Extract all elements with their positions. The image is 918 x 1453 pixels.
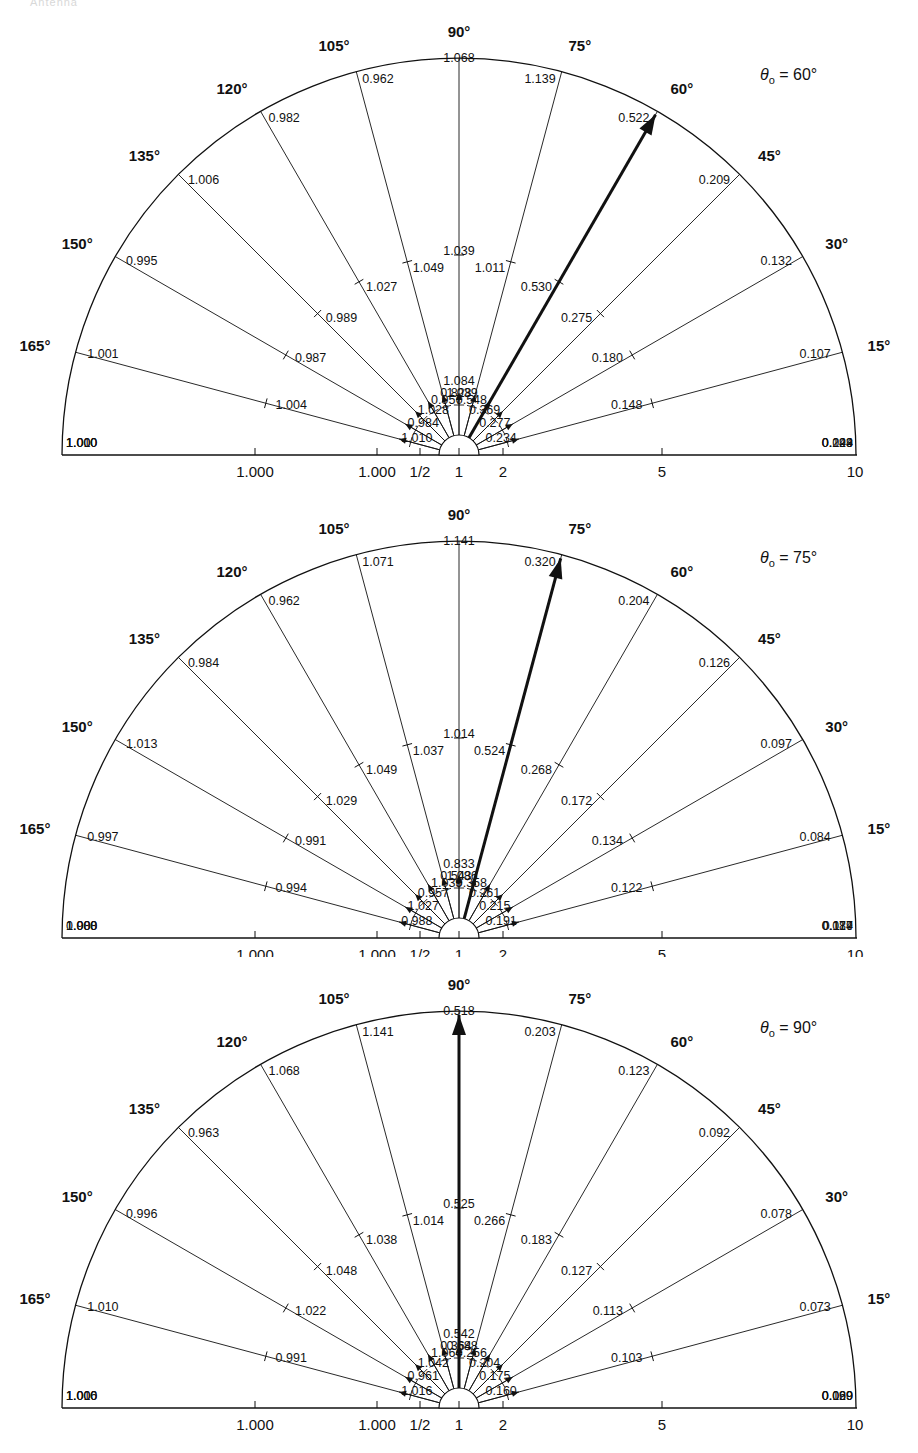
radial-ray-165 xyxy=(76,352,440,450)
theta0-annotation: θo = 90° xyxy=(760,1019,817,1039)
radial-ray-15 xyxy=(478,835,842,933)
radial-ray-45 xyxy=(473,174,740,441)
radial-ray-15 xyxy=(478,352,842,450)
radial-ray-135 xyxy=(178,174,445,441)
mid-value-105: 1.037 xyxy=(413,744,444,758)
radial-ray-105 xyxy=(356,555,454,919)
outer-value-45: 0.092 xyxy=(699,1126,730,1140)
mid-tick-30 xyxy=(630,1304,635,1313)
mid-value-30: 0.113 xyxy=(593,1304,623,1318)
radial-ray-45 xyxy=(473,657,740,924)
angle-label-105: 105° xyxy=(318,520,349,537)
angle-label-30: 30° xyxy=(825,1188,848,1205)
inner-value-135: 0.957 xyxy=(418,886,449,900)
axis-tick-label: 1.000 xyxy=(236,463,274,480)
angle-label-45: 45° xyxy=(758,1100,781,1117)
outer-value-150: 0.995 xyxy=(126,254,157,268)
axis-tick-label: 2 xyxy=(499,946,507,957)
angle-label-90: 90° xyxy=(448,506,471,523)
angle-label-90: 90° xyxy=(448,23,471,40)
radial-ray-15 xyxy=(478,1305,842,1403)
axis-tick-label: 5 xyxy=(658,463,666,480)
mid-tick-120 xyxy=(355,279,364,284)
inner-value-165: 1.016 xyxy=(401,1384,432,1398)
inner-value-180: 1.000 xyxy=(66,436,97,450)
inner-value-180: 1.000 xyxy=(66,919,97,933)
axis-tick-label: 10 xyxy=(847,946,864,957)
mid-value-120: 1.038 xyxy=(366,1233,397,1247)
angle-label-120: 120° xyxy=(216,80,247,97)
outer-value-165: 1.001 xyxy=(87,347,118,361)
axis-tick-label: 1.000 xyxy=(358,1416,396,1433)
mid-value-90: 1.014 xyxy=(443,727,474,741)
outer-value-90: 1.141 xyxy=(443,534,474,548)
mid-value-60: 0.530 xyxy=(521,280,552,294)
angle-label-150: 150° xyxy=(62,235,93,252)
mid-tick-150 xyxy=(283,1304,288,1313)
axis-tick-label: 5 xyxy=(658,946,666,957)
mid-value-120: 1.027 xyxy=(366,280,397,294)
angle-label-60: 60° xyxy=(671,563,694,580)
mid-value-60: 0.183 xyxy=(521,1233,552,1247)
outer-value-15: 0.107 xyxy=(799,347,830,361)
angle-label-60: 60° xyxy=(671,1033,694,1050)
angle-label-135: 135° xyxy=(129,147,160,164)
inner-value-150: 1.027 xyxy=(408,899,439,913)
mid-value-15: 0.148 xyxy=(611,398,642,412)
outer-value-165: 1.010 xyxy=(87,1300,118,1314)
inner-value-135: 1.028 xyxy=(418,403,449,417)
theta0-annotation: θo = 60° xyxy=(760,66,817,86)
mid-value-105: 1.014 xyxy=(413,1214,444,1228)
axis-tick-label: 1 xyxy=(455,946,463,957)
mid-value-150: 0.991 xyxy=(295,834,326,848)
outer-value-45: 0.126 xyxy=(699,656,730,670)
inner-value-165: 1.010 xyxy=(401,431,432,445)
polar-chart-panel-0: 1.0001.0001/21251015°30°45°60°75°90°105°… xyxy=(0,0,918,492)
radial-ray-105 xyxy=(356,1025,454,1389)
angle-label-135: 135° xyxy=(129,630,160,647)
outer-value-135: 0.984 xyxy=(188,656,219,670)
outer-value-30: 0.078 xyxy=(761,1207,792,1221)
mid-tick-120 xyxy=(355,1232,364,1237)
mid-value-45: 0.172 xyxy=(561,794,592,808)
axis-tick-label: 1 xyxy=(455,463,463,480)
angle-label-15: 15° xyxy=(868,820,891,837)
outer-value-30: 0.132 xyxy=(761,254,792,268)
angle-label-165: 165° xyxy=(19,820,50,837)
axis-tick-label: 1/2 xyxy=(410,946,431,957)
angle-label-120: 120° xyxy=(216,1033,247,1050)
inner-value-30: 0.277 xyxy=(479,416,510,430)
mid-tick-150 xyxy=(283,351,288,360)
inner-value-0: 0.120 xyxy=(822,1389,853,1403)
radial-ray-165 xyxy=(76,835,440,933)
mid-tick-30 xyxy=(630,834,635,843)
mid-value-45: 0.127 xyxy=(561,1264,592,1278)
axis-tick-label: 1.000 xyxy=(236,1416,274,1433)
angle-label-15: 15° xyxy=(868,337,891,354)
outer-value-60: 0.522 xyxy=(618,111,649,125)
radial-ray-75 xyxy=(464,72,562,436)
mid-value-135: 1.029 xyxy=(326,794,357,808)
mid-value-90: 1.039 xyxy=(443,244,474,258)
axis-tick-label: 10 xyxy=(847,1416,864,1433)
mid-value-165: 0.991 xyxy=(276,1351,307,1365)
inner-value-15: 0.234 xyxy=(486,431,517,445)
inner-value-0: 0.223 xyxy=(822,436,853,450)
outer-value-90: 0.518 xyxy=(443,1004,474,1018)
outer-value-135: 1.006 xyxy=(188,173,219,187)
angle-label-120: 120° xyxy=(216,563,247,580)
mid-value-15: 0.103 xyxy=(611,1351,642,1365)
angle-label-135: 135° xyxy=(129,1100,160,1117)
outer-value-75: 0.320 xyxy=(524,555,555,569)
angle-label-90: 90° xyxy=(448,976,471,993)
axis-tick-label: 2 xyxy=(499,463,507,480)
angle-label-105: 105° xyxy=(318,990,349,1007)
inner-value-15: 0.191 xyxy=(486,914,517,928)
angle-label-75: 75° xyxy=(568,990,591,1007)
radial-ray-135 xyxy=(178,1127,445,1394)
inner-value-0: 0.179 xyxy=(822,919,853,933)
inner-value-30: 0.215 xyxy=(479,899,510,913)
mid-value-120: 1.049 xyxy=(366,763,397,777)
outer-value-15: 0.073 xyxy=(799,1300,830,1314)
inner-value-30: 0.175 xyxy=(479,1369,510,1383)
